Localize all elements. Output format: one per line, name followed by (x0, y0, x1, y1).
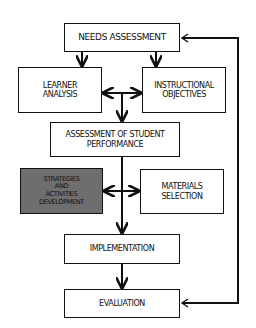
needs-assessment-node: NEEDS ASSESSMENT (64, 23, 180, 52)
node-label: ASSESSMENT OF STUDENT PERFORMANCE (65, 130, 164, 148)
instructional-objectives-node: INSTRUCTIONAL OBJECTIVES (142, 67, 226, 113)
node-label: INSTRUCTIONAL OBJECTIVES (154, 81, 214, 99)
evaluation-node: EVALUATION (64, 289, 180, 318)
node-label: MATERIALS SELECTION (161, 182, 202, 200)
strategies-and-activities-development-node: STRATEGIES AND ACTIVITIES DEVELOPMENT (20, 168, 103, 214)
materials-selection-node: MATERIALS SELECTION (140, 169, 224, 214)
assessment-of-student-performance-node: ASSESSMENT OF STUDENT PERFORMANCE (50, 122, 180, 157)
node-label: LEARNER ANALYSIS (43, 81, 78, 99)
node-label: IMPLEMENTATION (90, 244, 155, 253)
node-label: NEEDS ASSESSMENT (78, 32, 166, 42)
learner-analysis-node: LEARNER ANALYSIS (18, 67, 102, 113)
node-label: EVALUATION (99, 299, 145, 308)
implementation-node: IMPLEMENTATION (64, 234, 180, 264)
node-label: STRATEGIES AND ACTIVITIES DEVELOPMENT (39, 176, 84, 206)
